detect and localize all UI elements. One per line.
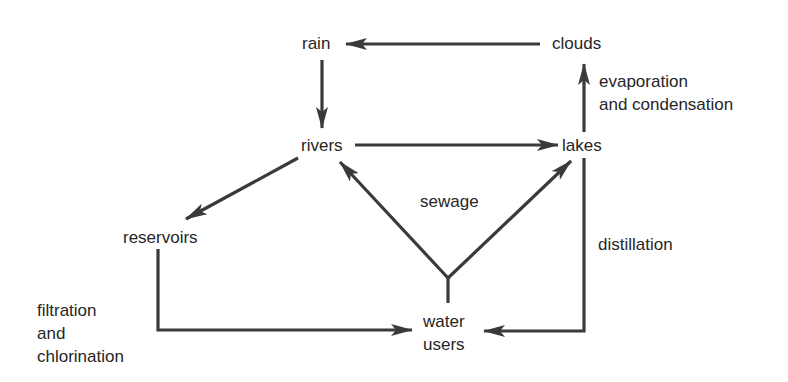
- node-lakes: lakes: [562, 136, 602, 156]
- node-rivers: rivers: [301, 136, 343, 156]
- node-rain: rain: [302, 34, 330, 54]
- arrow-rivers-to-reservoirs: [186, 158, 298, 219]
- arrow-sewage-to-lakes: [448, 161, 571, 278]
- label-evaporation-and-condensation: evaporation and condensation: [599, 70, 733, 116]
- node-water-users: water users: [423, 310, 465, 356]
- arrow-sewage-to-rivers: [340, 162, 448, 278]
- arrow-reservoirs-to-water-users: [158, 249, 412, 330]
- label-sewage: sewage: [420, 192, 479, 212]
- label-distillation: distillation: [598, 235, 673, 255]
- label-filtration-and-chlorination: filtration and chlorination: [37, 299, 124, 368]
- node-clouds: clouds: [552, 34, 601, 54]
- node-reservoirs: reservoirs: [123, 228, 198, 248]
- arrow-lakes-to-water-users: [484, 158, 584, 331]
